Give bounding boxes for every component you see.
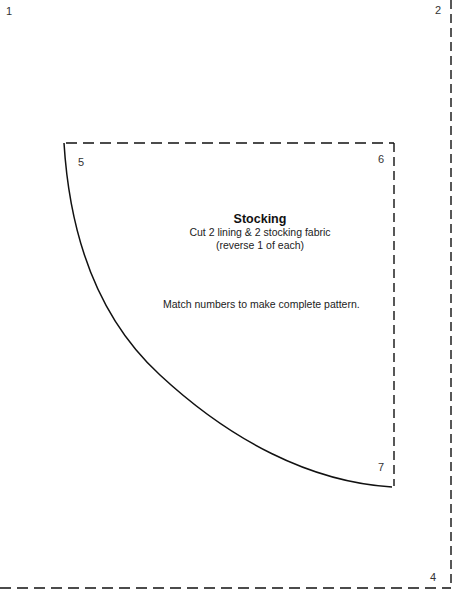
corner-label-7: 7 xyxy=(378,461,384,473)
page-number-bottom-right: 4 xyxy=(430,571,436,583)
corner-label-6: 6 xyxy=(378,153,384,165)
pattern-label-block: Stocking Cut 2 lining & 2 stocking fabri… xyxy=(170,212,350,252)
pattern-title: Stocking xyxy=(170,212,350,226)
page-number-top-right: 2 xyxy=(435,4,441,16)
reverse-instruction: (reverse 1 of each) xyxy=(170,239,350,252)
cutting-instruction: Cut 2 lining & 2 stocking fabric xyxy=(170,226,350,239)
piece-curved-cut-edge xyxy=(64,143,392,487)
page-number-top-left: 1 xyxy=(6,5,12,17)
assembly-note: Match numbers to make complete pattern. xyxy=(163,298,360,310)
corner-label-5: 5 xyxy=(78,156,84,168)
